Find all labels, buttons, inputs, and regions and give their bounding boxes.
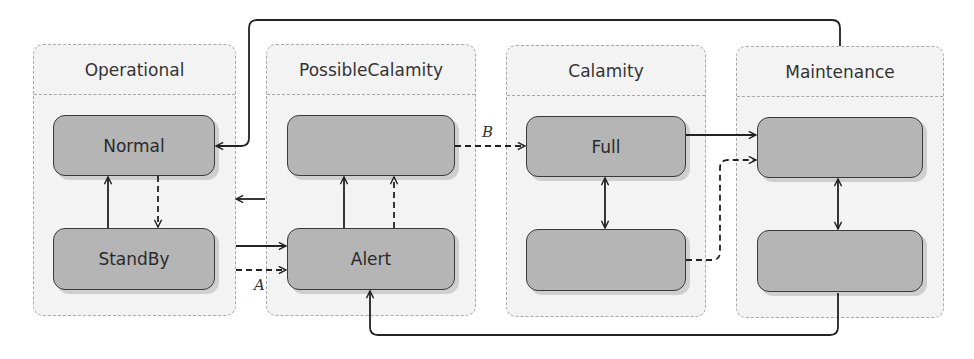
edge-label-a: A <box>254 276 265 294</box>
edge-cal-bottom-to-maint-top <box>686 160 756 260</box>
edge-maint-bottom-to-alert <box>370 291 838 335</box>
edges-layer <box>0 0 974 359</box>
edge-label-b: B <box>482 123 493 141</box>
edge-maintenance-to-normal <box>216 20 840 146</box>
